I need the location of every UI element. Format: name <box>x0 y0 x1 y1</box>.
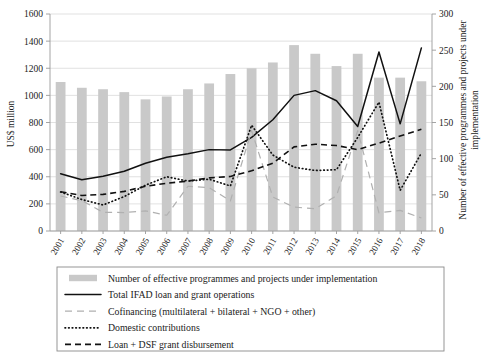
y-axis-right-tick-label: 150 <box>439 118 454 128</box>
bar <box>204 83 214 231</box>
y-axis-left-tick-label: 400 <box>29 172 44 182</box>
bar <box>247 68 257 231</box>
y-axis-left-tick-label: 1000 <box>24 91 43 101</box>
x-axis-year-label: 2003 <box>91 236 109 257</box>
x-axis-year-label: 2010 <box>240 236 258 257</box>
legend-item[interactable]: Cofinancing (multilateral + bilateral + … <box>65 306 315 318</box>
y-axis-left-tick-label: 0 <box>38 226 43 236</box>
y-axis-right-tick-label: 300 <box>439 9 454 19</box>
legend-item-label: Domestic contributions <box>108 322 200 333</box>
x-axis-year-label: 2014 <box>325 236 343 257</box>
bar <box>56 82 66 231</box>
y-axis-right-title-line2: implementation <box>470 90 480 150</box>
chart-legend: Number of effective programmes and proje… <box>57 267 444 351</box>
y-axis-left-tick-label: 1400 <box>24 37 43 47</box>
legend-item[interactable]: Number of effective programmes and proje… <box>69 273 378 284</box>
legend-item-label: Loan + DSF grant disbursement <box>108 339 234 350</box>
x-axis-year-label: 2018 <box>409 236 427 257</box>
y-axis-left-tick-labels: 02004006008001000120014001600 <box>24 9 50 236</box>
x-axis-year-label: 2005 <box>134 236 152 257</box>
x-axis-year-label: 2009 <box>218 236 236 257</box>
y-axis-right-tick-label: 50 <box>439 190 449 200</box>
y-axis-left-tick-label: 1600 <box>24 9 43 19</box>
combo-chart: 02004006008001000120014001600 0501001502… <box>0 0 490 354</box>
line-series <box>61 48 422 180</box>
legend-item-label: Cofinancing (multilateral + bilateral + … <box>108 306 315 318</box>
legend-item-label: Number of effective programmes and proje… <box>108 273 378 284</box>
x-axis-year-label: 2008 <box>197 236 215 257</box>
x-axis-year-label: 2011 <box>261 236 278 256</box>
y-axis-left-tick-label: 800 <box>29 118 44 128</box>
bar <box>226 74 236 231</box>
x-axis-year-label: 2015 <box>346 236 364 257</box>
bar <box>332 66 342 231</box>
bar <box>162 96 172 231</box>
x-axis-year-label: 2002 <box>70 236 88 257</box>
legend-item[interactable]: Loan + DSF grant disbursement <box>65 339 234 350</box>
bar-series-effective-programmes <box>56 45 427 231</box>
x-axis-year-labels: 2001200220032004200520062007200820092010… <box>49 231 428 257</box>
chart-figure: 02004006008001000120014001600 0501001502… <box>0 0 490 354</box>
bar <box>395 78 405 231</box>
line-series <box>61 129 422 195</box>
bar <box>119 92 129 231</box>
y-axis-right-tick-label: 0 <box>439 226 444 236</box>
y-axis-right-tick-labels: 050100150200250300 <box>432 9 454 236</box>
y-axis-left-tick-label: 200 <box>29 199 44 209</box>
bar <box>417 81 427 231</box>
x-axis-year-label: 2004 <box>112 236 130 257</box>
x-axis-year-label: 2016 <box>367 236 385 257</box>
y-axis-right-tick-label: 200 <box>439 82 454 92</box>
bar <box>310 54 320 231</box>
y-axis-left-title: US$ million <box>6 100 16 147</box>
y-axis-right-tick-label: 250 <box>439 46 454 56</box>
y-axis-right-tick-label: 100 <box>439 154 454 164</box>
y-axis-left-tick-label: 600 <box>29 145 44 155</box>
y-axis-left-tick-label: 1200 <box>24 64 43 74</box>
bar <box>77 88 87 231</box>
legend-bar-swatch-icon <box>69 275 97 281</box>
legend-item-label: Total IFAD loan and grant operations <box>108 289 255 300</box>
bar <box>183 89 193 231</box>
legend-item[interactable]: Domestic contributions <box>65 322 200 333</box>
line-series-layer <box>61 48 422 218</box>
y-axis-right-title-line1: Number of effective programmes and proje… <box>458 20 468 220</box>
x-axis-year-label: 2001 <box>49 236 67 257</box>
legend-item[interactable]: Total IFAD loan and grant operations <box>65 289 255 300</box>
x-axis-year-label: 2013 <box>303 236 321 257</box>
x-axis-year-label: 2006 <box>155 236 173 257</box>
x-axis-year-label: 2007 <box>176 236 194 257</box>
x-axis-year-label: 2017 <box>388 236 406 257</box>
bar <box>374 78 384 231</box>
bar <box>289 45 299 231</box>
bar <box>268 62 278 231</box>
x-axis-year-label: 2012 <box>282 236 300 257</box>
line-series <box>61 102 422 205</box>
